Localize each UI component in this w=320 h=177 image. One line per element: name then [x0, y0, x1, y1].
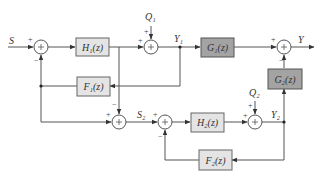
signal-y2-label: Y₂ — [271, 109, 281, 120]
sign-sum3-g2: − — [279, 56, 284, 65]
sign-sum6-in: + — [243, 111, 248, 120]
summing-junction-1 — [34, 40, 48, 54]
junction-y1 — [178, 45, 181, 48]
sign-sum5-fb: − — [158, 132, 163, 141]
block-f2: F₂(z) — [199, 150, 232, 170]
sign-sum4-left: + — [106, 110, 111, 119]
block-g1: G₁(z) — [201, 38, 234, 57]
sign-sum1-s: + — [28, 35, 33, 44]
junction-feedback — [39, 84, 42, 87]
sign-sum1-fb: − — [34, 56, 39, 65]
summing-junction-4 — [112, 115, 126, 129]
sign-sum4-top: − — [112, 100, 117, 109]
summing-junction-3 — [277, 40, 291, 54]
signal-q1-label: Q₁ — [145, 11, 156, 22]
block-f1-label: F₁(z) — [82, 81, 104, 93]
block-g1-label: G₁(z) — [207, 42, 229, 54]
block-g2-label: G₂(z) — [274, 74, 296, 86]
signal-q2-label: Q₂ — [249, 87, 260, 98]
wire-y1-f1 — [110, 47, 180, 86]
block-h1: H₁(z) — [76, 38, 109, 56]
block-h2: H₂(z) — [191, 113, 224, 132]
block-diagram: H₁(z) F₁(z) G₁(z) G₂(z) H₂(z) F₂(z) S Q₁… — [0, 0, 320, 177]
summing-junction-5 — [158, 115, 172, 129]
sign-sum2-in: + — [138, 36, 143, 45]
sign-sum6-q2: + — [248, 101, 253, 110]
signal-s-label: S — [9, 35, 14, 46]
summing-junction-2 — [144, 40, 158, 54]
signal-y1-label: Y₁ — [174, 33, 183, 44]
block-h2-label: H₂(z) — [196, 117, 219, 129]
block-h1-label: H₁(z) — [81, 42, 104, 54]
sign-sum3-in: + — [271, 35, 276, 44]
block-f1: F₁(z) — [77, 77, 110, 96]
signal-s2-label: S₂ — [137, 109, 146, 120]
summing-junction-6 — [248, 115, 262, 129]
sign-sum5-left: + — [153, 110, 158, 119]
block-g2: G₂(z) — [268, 69, 302, 89]
junction-y2 — [282, 120, 285, 123]
sign-sum2-q1: + — [144, 27, 149, 36]
signal-y-label: Y — [298, 34, 305, 45]
block-f2-label: F₂(z) — [204, 155, 226, 167]
wire-f2-sum5 — [165, 130, 199, 160]
